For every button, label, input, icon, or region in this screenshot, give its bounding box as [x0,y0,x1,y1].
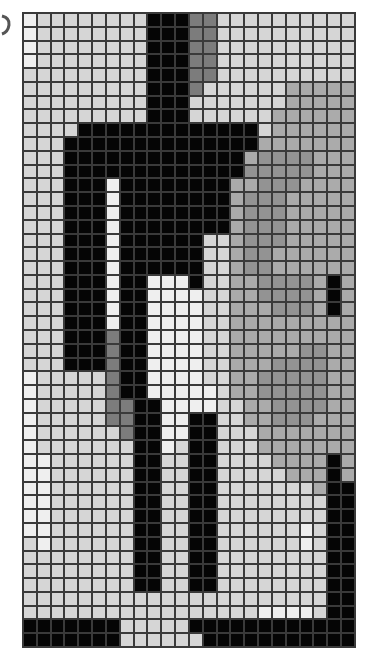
grid-cell [52,221,64,233]
grid-cell [176,552,188,564]
grid-cell [259,179,271,191]
grid-cell [287,42,299,54]
grid-cell [245,110,257,122]
grid-cell [204,400,216,412]
grid-cell [245,193,257,205]
grid-cell [93,634,105,646]
grid-cell [204,14,216,26]
grid-cell [259,97,271,109]
grid-cell [287,510,299,522]
grid-cell [314,262,326,274]
grid-cell [259,110,271,122]
grid-cell [342,414,354,426]
grid-cell [259,593,271,605]
grid-cell [190,14,202,26]
grid-cell [301,400,313,412]
grid-cell [273,414,285,426]
grid-cell [342,152,354,164]
grid-cell [176,28,188,40]
grid-cell [38,55,50,67]
grid-cell [135,262,147,274]
grid-cell [218,290,230,302]
grid-cell [273,469,285,481]
grid-cell [65,290,77,302]
grid-cell [162,97,174,109]
grid-cell [328,235,340,247]
grid-cell [245,235,257,247]
grid-cell [93,69,105,81]
grid-cell [218,166,230,178]
grid-cell [259,14,271,26]
grid-cell [328,400,340,412]
grid-cell [204,55,216,67]
grid-cell [135,28,147,40]
grid-cell [328,538,340,550]
grid-cell [52,510,64,522]
grid-cell [287,14,299,26]
grid-cell [301,317,313,329]
grid-cell [107,262,119,274]
grid-cell [38,235,50,247]
grid-cell [24,193,36,205]
grid-cell [79,620,91,632]
grid-cell [65,579,77,591]
grid-cell [135,510,147,522]
grid-cell [287,110,299,122]
grid-cell [93,538,105,550]
grid-cell [190,221,202,233]
grid-cell [176,207,188,219]
grid-cell [218,193,230,205]
grid-cell [301,565,313,577]
grid-cell [314,524,326,536]
grid-cell [79,331,91,343]
grid-cell [231,620,243,632]
grid-cell [231,193,243,205]
grid-cell [79,235,91,247]
grid-cell [218,14,230,26]
grid-cell [273,276,285,288]
grid-cell [328,524,340,536]
grid-cell [218,28,230,40]
grid-cell [287,221,299,233]
grid-cell [24,331,36,343]
grid-cell [107,510,119,522]
grid-cell [231,524,243,536]
grid-cell [24,427,36,439]
grid-cell [121,400,133,412]
grid-cell [38,97,50,109]
grid-cell [301,607,313,619]
grid-cell [107,179,119,191]
grid-cell [162,14,174,26]
grid-cell [52,290,64,302]
grid-cell [342,510,354,522]
grid-cell [148,110,160,122]
grid-cell [135,552,147,564]
grid-cell [273,14,285,26]
grid-cell [328,579,340,591]
grid-cell [135,221,147,233]
grid-cell [24,235,36,247]
grid-cell [314,248,326,260]
grid-cell [314,193,326,205]
grid-cell [176,565,188,577]
grid-cell [121,593,133,605]
grid-cell [328,345,340,357]
grid-cell [162,538,174,550]
grid-cell [24,400,36,412]
grid-cell [38,179,50,191]
grid-cell [287,538,299,550]
grid-cell [204,152,216,164]
grid-cell [342,179,354,191]
grid-cell [273,262,285,274]
grid-cell [52,620,64,632]
grid-cell [93,620,105,632]
grid-cell [162,83,174,95]
grid-cell [65,469,77,481]
grid-cell [273,248,285,260]
grid-cell [52,441,64,453]
grid-cell [162,152,174,164]
grid-cell [121,414,133,426]
grid-cell [121,345,133,357]
grid-cell [328,441,340,453]
grid-cell [65,510,77,522]
